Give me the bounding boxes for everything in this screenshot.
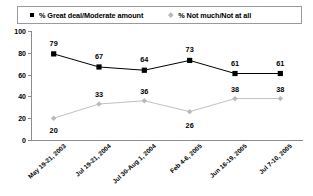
- y-tick-label: 20: [18, 115, 26, 122]
- square-marker-icon: [232, 71, 237, 76]
- square-marker-icon: [96, 64, 101, 69]
- y-tick-label: 40: [18, 93, 26, 100]
- square-marker-icon: [187, 58, 192, 63]
- data-point-label: 79: [50, 40, 58, 47]
- data-point-label: 33: [95, 91, 103, 98]
- diamond-marker-icon: [96, 101, 101, 106]
- data-point-label: 64: [140, 57, 148, 64]
- diamond-marker-icon: [278, 96, 283, 101]
- diamond-marker-icon: [142, 98, 147, 103]
- x-axis-label: Jun 16-19, 2005: [209, 143, 248, 179]
- legend-label: % Great deal/Moderate amount: [39, 11, 143, 20]
- data-point-label: 20: [50, 128, 58, 135]
- legend-entry-great-deal-moderate[interactable]: % Great deal/Moderate amount: [26, 10, 143, 21]
- x-axis-label: Jul 30-Aug 1, 2004: [112, 143, 158, 185]
- square-marker-icon: [51, 51, 56, 56]
- diamond-marker-icon: [165, 10, 176, 21]
- data-point-label: 73: [186, 47, 194, 54]
- square-marker-icon: [142, 68, 147, 73]
- y-tick-label: 100: [14, 28, 26, 35]
- data-point-label: 38: [231, 86, 239, 93]
- diamond-marker-icon: [232, 96, 237, 101]
- x-axis-label: Feb 4-6, 2005: [169, 143, 203, 175]
- series-line: [54, 99, 281, 119]
- y-tick-label: 80: [18, 49, 26, 56]
- data-point-label: 67: [95, 53, 103, 60]
- data-point-label: 38: [276, 86, 284, 93]
- x-axis-label: Jul 7-10, 2005: [258, 143, 293, 176]
- x-axis-label: Jul 19-21, 2004: [74, 143, 112, 178]
- diamond-marker-icon: [187, 109, 192, 114]
- line-chart: % Great deal/Moderate amount % Not much/…: [0, 0, 313, 196]
- legend-entry-not-much-not-at-all[interactable]: % Not much/Not at all: [165, 10, 251, 21]
- plot-area: 020406080100 796764736161203336263838: [31, 31, 303, 141]
- square-marker-icon: [278, 71, 283, 76]
- data-point-label: 36: [140, 88, 148, 95]
- data-point-label: 61: [231, 60, 239, 67]
- y-tick-label: 60: [18, 71, 26, 78]
- square-marker-icon: [26, 10, 37, 21]
- x-axis-label: May 19-21, 2003: [27, 143, 67, 180]
- data-point-label: 61: [276, 60, 284, 67]
- y-tick-label: 0: [22, 137, 26, 144]
- series-plot: [31, 31, 303, 141]
- diamond-marker-icon: [51, 116, 56, 121]
- x-axis-labels: May 19-21, 2003Jul 19-21, 2004Jul 30-Aug…: [31, 141, 303, 196]
- data-point-label: 26: [186, 122, 194, 129]
- legend-label: % Not much/Not at all: [178, 11, 251, 20]
- chart-legend: % Great deal/Moderate amount % Not much/…: [17, 6, 302, 24]
- series-line: [54, 54, 281, 74]
